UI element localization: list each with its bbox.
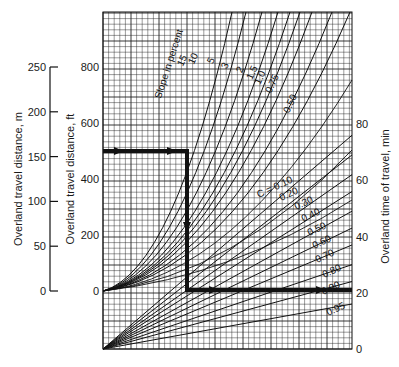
tick-label-minutes: 60 [356, 174, 368, 186]
c-line-0.70 [103, 245, 352, 349]
tick-label-minutes: 40 [356, 231, 368, 243]
tick-label-minutes: 0 [356, 343, 362, 355]
tick-label-meters: 0 [40, 285, 46, 297]
tick-label-feet: 200 [81, 229, 99, 241]
slope-label-0.50: 0.50 [281, 92, 299, 115]
c-label-0.80: 0.80 [320, 262, 343, 280]
arrow-right-icon [114, 147, 124, 155]
tick-label-feet: 0 [93, 285, 99, 297]
nomograph-chart: 050100150200250Overland travel distance,… [0, 0, 399, 367]
c-line-0.20 [103, 155, 352, 349]
example-path [103, 147, 352, 294]
axis-title-meters: Overland travel distance, m [12, 112, 24, 246]
c-line-0.30 [103, 175, 352, 349]
tick-label-feet: 400 [81, 173, 99, 185]
slope-label-2: 2 [234, 64, 247, 74]
tick-label-meters: 250 [28, 61, 46, 73]
arrow-right-icon [167, 147, 177, 155]
c-label-0.90: 0.90 [319, 279, 342, 297]
tick-label-meters: 150 [28, 151, 46, 163]
tick-label-minutes: 80 [356, 118, 368, 130]
example-path-line [103, 151, 352, 290]
axis-title-minutes: Overland time of travel, min [379, 129, 391, 264]
grid [103, 12, 352, 349]
tick-label-meters: 50 [34, 240, 46, 252]
tick-label-feet: 800 [81, 61, 99, 73]
c-line-0.80 [103, 265, 352, 349]
tick-label-minutes: 20 [356, 287, 368, 299]
axis-title-feet: Overland travel distance, ft [64, 114, 76, 245]
tick-label-meters: 100 [28, 195, 46, 207]
tick-label-meters: 200 [28, 106, 46, 118]
tick-label-feet: 600 [81, 117, 99, 129]
